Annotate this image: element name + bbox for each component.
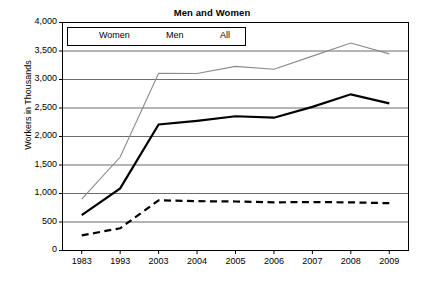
line-chart: Men and Women Workers in Thousands 05001… — [0, 0, 424, 282]
legend-label-women: Women — [99, 30, 130, 40]
x-tick-label: 2005 — [214, 256, 258, 266]
legend-label-men: Men — [166, 30, 184, 40]
y-tick-label: 500 — [5, 216, 57, 226]
series-lines — [82, 43, 390, 235]
x-tick-label: 2004 — [175, 256, 219, 266]
y-tick-marks — [59, 23, 63, 251]
x-tick-label: 2003 — [137, 256, 181, 266]
x-tick-label: 1983 — [60, 256, 104, 266]
gridlines — [63, 51, 409, 222]
y-tick-label: 1,000 — [5, 187, 57, 197]
y-tick-label: 2,000 — [5, 130, 57, 140]
x-tick-marks — [82, 251, 390, 255]
y-tick-label: 3,000 — [5, 73, 57, 83]
y-tick-label: 3,500 — [5, 45, 57, 55]
x-tick-label: 2007 — [290, 256, 334, 266]
x-tick-label: 1993 — [98, 256, 142, 266]
series-line-women — [82, 200, 390, 235]
x-tick-label: 2008 — [329, 256, 373, 266]
y-tick-label: 4,000 — [5, 16, 57, 26]
y-tick-label: 0 — [5, 244, 57, 254]
series-line-men — [82, 94, 390, 215]
x-tick-label: 2009 — [367, 256, 411, 266]
legend-label-all: All — [220, 30, 230, 40]
x-tick-label: 2006 — [252, 256, 296, 266]
y-tick-label: 2,500 — [5, 102, 57, 112]
y-tick-label: 1,500 — [5, 159, 57, 169]
